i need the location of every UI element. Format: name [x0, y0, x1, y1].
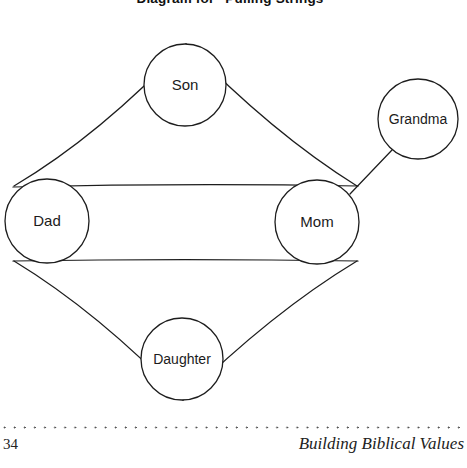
- node-label-mom: Mom: [300, 213, 333, 230]
- edge-grandma-mom: [350, 150, 392, 194]
- footer-divider: [3, 426, 464, 429]
- node-label-dad: Dad: [33, 212, 61, 229]
- node-label-son: Son: [172, 76, 199, 93]
- book-title: Building Biblical Values: [299, 434, 464, 454]
- relationship-diagram: Son Grandma Dad Mom Daughter: [0, 0, 467, 420]
- node-label-grandma: Grandma: [389, 111, 448, 127]
- page-canvas: Diagram for “Pulling Strings”: [0, 0, 467, 468]
- page-number: 34: [3, 436, 18, 453]
- node-label-daughter: Daughter: [153, 351, 211, 367]
- diagram-svg: Son Grandma Dad Mom Daughter: [0, 0, 467, 420]
- diagram-nodes: [5, 44, 458, 400]
- page-footer: 34 Building Biblical Values: [0, 420, 467, 468]
